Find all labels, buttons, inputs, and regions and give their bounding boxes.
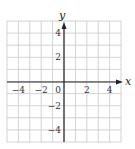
axes (7, 22, 123, 142)
x-tick-label: 4 (107, 85, 113, 95)
x-tick-label: 0 (55, 85, 61, 95)
y-tick-label: 4 (55, 28, 61, 38)
x-tick-label: 2 (84, 85, 90, 95)
x-tick-label: −4 (12, 85, 26, 95)
coordinate-grid: x y −4−2024 42−2−4 (0, 0, 135, 149)
y-tick-label: 2 (55, 52, 61, 62)
x-axis-label: x (125, 75, 132, 88)
x-tick-labels: −4−2024 (12, 85, 113, 95)
y-tick-label: −2 (48, 101, 61, 111)
y-axis-arrow-icon (62, 22, 67, 29)
x-axis-arrow-icon (116, 80, 123, 85)
y-tick-label: −4 (48, 125, 62, 135)
y-axis-label: y (58, 9, 66, 22)
x-tick-label: −2 (35, 85, 48, 95)
